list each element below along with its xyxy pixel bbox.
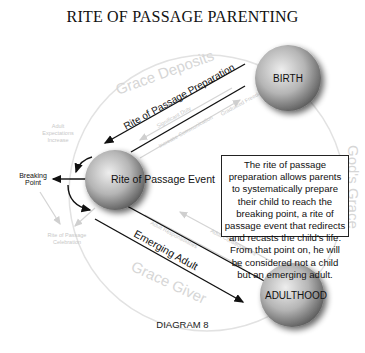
adult-expectations-label-2: Expectations xyxy=(42,130,74,136)
celebration-label: Rite of Passage xyxy=(48,232,87,238)
faint-arrow xyxy=(75,208,95,226)
breaking-point-label-2: Point xyxy=(25,179,41,186)
celebration-label-2: Celebration xyxy=(53,239,81,245)
event-label: Rite of Passage Event xyxy=(111,173,215,185)
adult-expectations-label: Adult xyxy=(52,123,65,129)
birth-label: BIRTH xyxy=(273,73,303,84)
faint-arrow xyxy=(40,192,60,224)
adulthood-label: ADULTHOOD xyxy=(265,290,327,301)
adult-expectations-label-3: Increase xyxy=(47,137,68,143)
diagram-caption: DIAGRAM 8 xyxy=(0,319,365,330)
description-box: The rite of passage preparation allows p… xyxy=(221,155,349,237)
